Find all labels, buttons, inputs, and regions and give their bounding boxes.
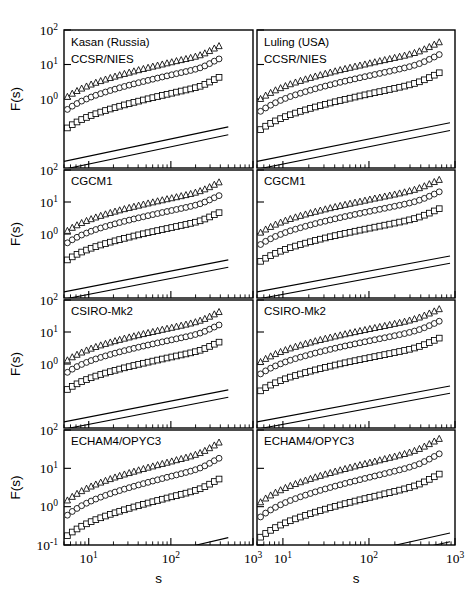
slope-0.5-line-lower [64,267,228,299]
x-tick-label: 101 [274,550,293,566]
data-series-group [64,439,222,539]
triangle-marker [312,73,318,79]
y-tick-label: 102 [40,162,59,178]
circle-marker [436,318,442,324]
panel-kasan-ccsr-nies: 100101102Kasan (Russia)CCSR/NIES [40,22,253,170]
triangle-marker [436,39,442,45]
y-tick-label: 100 [40,498,59,514]
square-marker [436,206,442,212]
triangle-marker [406,51,412,57]
x-axis-label: s [155,571,162,586]
slope-0.5-line-lower [257,263,450,299]
square-marker [216,476,222,482]
triangle-marker [292,214,298,220]
slope-0.5-line [64,260,228,292]
reference-lines [257,256,450,299]
circle-marker [216,56,222,62]
slope-0.5-line [64,127,228,161]
triangle-marker [216,179,222,185]
data-series-group [64,308,222,392]
triangle-marker [302,211,308,217]
circle-marker [436,52,442,58]
y-axis-label: F(s) [8,87,23,111]
triangle-marker [312,474,318,480]
triangle-marker [327,469,333,475]
y-tick-label: 100 [40,91,59,107]
x-axis-label: s [353,571,360,586]
panel-frame [64,300,253,428]
x-tick-label: 103 [446,550,465,566]
triangle-marker [436,176,442,182]
data-series-group [257,435,442,540]
triangle-marker [342,465,348,471]
triangle-marker [297,212,303,218]
circle-marker [216,193,222,199]
site-label: Kasan (Russia) [71,36,150,48]
data-series-group [257,306,442,394]
dfa-fluctuation-figure: 100101102Kasan (Russia)CCSR/NIESLuling (… [0,0,475,606]
model-label: CCSR/NIES [71,53,134,65]
data-series-group [64,179,222,263]
slope-0.5-line-lower [64,397,228,429]
model-label: ECHAM4/OPYC3 [264,435,354,447]
y-tick-label: 101 [40,56,59,72]
x-tick-label: 102 [360,550,379,566]
panel-kasan-echam4-opyc3: 10-1100101102101102103ECHAM4/OPYC3 [37,422,263,585]
panel-luling-ccsr-nies: Luling (USA)CCSR/NIES [257,30,455,169]
y-tick-label: 102 [40,22,59,38]
triangle-marker [292,343,298,349]
slope-0.5-line [257,386,450,422]
model-label: CGCM1 [71,175,113,187]
reference-lines [257,386,450,429]
square-marker [216,339,222,345]
triangle-marker [317,472,323,478]
triangle-marker [406,188,412,194]
site-label: Luling (USA) [264,36,329,48]
y-axis-label: F(s) [8,222,23,246]
y-tick-label: 102 [40,292,59,308]
circle-marker [436,451,442,457]
y-axis-label: F(s) [8,476,23,500]
y-axis-label: F(s) [8,352,23,376]
y-tick-label: 101 [40,194,59,210]
data-series-group [257,176,442,264]
triangle-marker [297,77,303,83]
triangle-marker [401,450,407,456]
circle-marker [258,514,264,520]
y-tick-label: 100 [40,356,59,372]
x-tick-label: 101 [80,550,99,566]
slope-0.5-line-lower [257,131,450,170]
triangle-marker [297,342,303,348]
panel-luling-echam4-opyc3: 101102103ECHAM4/OPYC3 [257,430,464,585]
circle-marker [216,455,222,461]
model-label: CSIRO-Mk2 [264,305,326,317]
y-tick-label: 101 [40,460,59,476]
triangle-marker [436,306,442,312]
square-marker [216,210,222,216]
triangle-marker [287,215,293,221]
triangle-marker [216,439,222,445]
circle-marker [216,322,222,328]
triangle-marker [436,435,442,441]
figure-canvas: 100101102Kasan (Russia)CCSR/NIESLuling (… [0,0,475,606]
model-label: CGCM1 [264,175,306,187]
model-label: CSIRO-Mk2 [71,305,133,317]
triangle-marker [302,340,308,346]
slope-0.5-line [257,256,450,292]
panel-luling-cgcm1: CGCM1 [257,170,455,299]
triangle-marker [406,317,412,323]
series-triangle [257,39,442,102]
square-marker [436,70,442,76]
triangle-marker [257,499,263,505]
square-marker [436,335,442,341]
slope-0.5-line [64,390,228,422]
slope-0.5-line-lower [64,135,228,170]
y-tick-label: 100 [40,226,59,242]
panel-kasan-cgcm1: 100101102CGCM1 [40,162,253,300]
triangle-marker [287,81,293,87]
triangle-marker [216,308,222,314]
y-tick-label: 102 [40,422,59,438]
x-tick-label: 102 [162,550,181,566]
square-marker [216,75,222,81]
y-tick-label: 10-1 [37,537,59,553]
